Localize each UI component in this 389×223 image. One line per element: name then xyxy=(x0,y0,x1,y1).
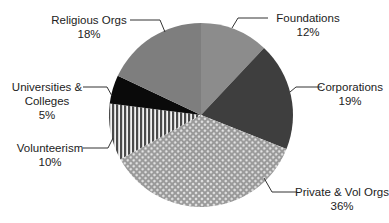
leader-foundations xyxy=(232,18,268,28)
label-private-name: Private & Vol Orgs xyxy=(295,186,389,198)
label-religious-name: Religious Orgs xyxy=(51,14,127,26)
leader-religious xyxy=(130,20,165,32)
pie-chart: Foundations 12% Corporations 19% Private… xyxy=(0,0,389,223)
label-foundations-name: Foundations xyxy=(276,12,340,24)
label-religious-orgs: Religious Orgs 18% xyxy=(51,14,127,40)
label-universities-name-1: Universities & xyxy=(12,81,83,93)
label-foundations: Foundations 12% xyxy=(276,12,340,38)
label-private-vol-orgs: Private & Vol Orgs 36% xyxy=(295,186,389,212)
label-religious-pct: 18% xyxy=(77,28,100,40)
label-volunteerism-pct: 10% xyxy=(38,156,61,168)
label-foundations-pct: 12% xyxy=(296,26,319,38)
leader-volunteerism xyxy=(83,138,113,148)
leader-private xyxy=(264,178,297,192)
label-universities-name-2: Colleges xyxy=(25,95,70,107)
label-universities-pct: 5% xyxy=(39,109,56,121)
pie xyxy=(109,23,293,207)
label-corporations: Corporations 19% xyxy=(317,81,383,107)
label-universities-colleges: Universities & Colleges 5% xyxy=(12,81,83,121)
label-corporations-pct: 19% xyxy=(338,95,361,107)
label-corporations-name: Corporations xyxy=(317,81,383,93)
label-volunteerism: Volunteerism 10% xyxy=(17,142,83,168)
label-volunteerism-name: Volunteerism xyxy=(17,142,83,154)
leader-universities xyxy=(83,87,112,96)
label-private-pct: 36% xyxy=(330,200,353,212)
